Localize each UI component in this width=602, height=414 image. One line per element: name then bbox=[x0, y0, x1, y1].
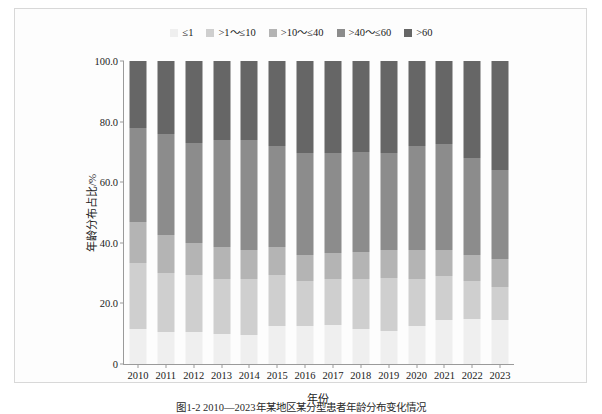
bar-segment bbox=[241, 140, 258, 251]
stacked-bar[interactable] bbox=[324, 61, 341, 364]
bar-segment bbox=[185, 61, 202, 143]
bar-segment bbox=[380, 278, 397, 331]
bar-segment bbox=[129, 263, 146, 330]
x-axis-tick-label: 2018 bbox=[350, 370, 371, 381]
bar-segment bbox=[157, 134, 174, 236]
bar-slot: 2013 bbox=[208, 61, 236, 364]
chart-legend: ≤1>1～≤10>10～≤40>40～≤60>60 bbox=[15, 28, 588, 39]
bar-segment bbox=[492, 259, 509, 286]
bar-segment bbox=[129, 222, 146, 263]
bar-segment bbox=[492, 170, 509, 259]
bar-segment bbox=[297, 153, 314, 255]
stacked-bar[interactable] bbox=[380, 61, 397, 364]
stacked-bar[interactable] bbox=[436, 61, 453, 364]
bar-segment bbox=[297, 326, 314, 364]
bar-segment bbox=[297, 281, 314, 326]
stacked-bar[interactable] bbox=[352, 61, 369, 364]
bar-slot: 2022 bbox=[458, 61, 486, 364]
bar-slot: 2016 bbox=[291, 61, 319, 364]
x-axis-tick-mark bbox=[305, 364, 306, 368]
stacked-bar[interactable] bbox=[492, 61, 509, 364]
bar-segment bbox=[157, 273, 174, 332]
legend-swatch-icon bbox=[170, 29, 178, 37]
bar-segment bbox=[324, 325, 341, 364]
bar-segment bbox=[380, 153, 397, 250]
bar-segment bbox=[380, 331, 397, 364]
stacked-bar[interactable] bbox=[185, 61, 202, 364]
bar-segment bbox=[129, 61, 146, 128]
chart-frame: ≤1>1～≤10>10～≤40>40～≤60>60 年龄分布占比/% 020.0… bbox=[14, 8, 587, 383]
stacked-bar[interactable] bbox=[297, 61, 314, 364]
plot-area: 年龄分布占比/% 020.040.060.080.0100.0 20102011… bbox=[123, 61, 514, 365]
bar-slot: 2017 bbox=[319, 61, 347, 364]
bar-segment bbox=[157, 235, 174, 273]
bar-segment bbox=[157, 61, 174, 134]
x-axis-tick-label: 2020 bbox=[406, 370, 427, 381]
stacked-bar[interactable] bbox=[213, 61, 230, 364]
legend-swatch-icon bbox=[337, 29, 345, 37]
bar-segment bbox=[185, 243, 202, 275]
bar-segment bbox=[408, 250, 425, 279]
bar-segment bbox=[408, 146, 425, 251]
bar-segment bbox=[269, 146, 286, 248]
bar-segment bbox=[408, 61, 425, 146]
bar-segment bbox=[269, 247, 286, 274]
bar-segment bbox=[352, 279, 369, 329]
bar-slot: 2023 bbox=[486, 61, 514, 364]
bar-segment bbox=[464, 158, 481, 255]
bar-segment bbox=[297, 255, 314, 281]
stacked-bar[interactable] bbox=[241, 61, 258, 364]
x-axis-tick-label: 2017 bbox=[322, 370, 343, 381]
bar-segment bbox=[324, 153, 341, 253]
legend-item[interactable]: >10～≤40 bbox=[269, 28, 324, 39]
bar-segment bbox=[185, 275, 202, 333]
bar-segment bbox=[408, 279, 425, 326]
bar-segment bbox=[213, 140, 230, 248]
bar-segment bbox=[241, 279, 258, 335]
bar-segment bbox=[269, 275, 286, 327]
x-axis-tick-label: 2013 bbox=[211, 370, 232, 381]
bar-segment bbox=[436, 320, 453, 364]
bar-segment bbox=[464, 61, 481, 158]
bar-segment bbox=[436, 276, 453, 320]
stacked-bar[interactable] bbox=[129, 61, 146, 364]
x-axis-tick-mark bbox=[277, 364, 278, 368]
x-axis-tick-mark bbox=[388, 364, 389, 368]
bar-segment bbox=[185, 332, 202, 364]
x-axis-tick-mark bbox=[416, 364, 417, 368]
x-axis-tick-mark bbox=[249, 364, 250, 368]
legend-item-label: ≤1 bbox=[182, 28, 193, 39]
x-axis-tick-label: 2019 bbox=[378, 370, 399, 381]
legend-item-label: >1～≤10 bbox=[218, 28, 255, 39]
bar-segment bbox=[436, 144, 453, 250]
legend-item[interactable]: ≤1 bbox=[170, 28, 193, 39]
legend-item-label: >40～≤60 bbox=[349, 28, 392, 39]
bar-segment bbox=[352, 329, 369, 364]
x-axis-tick-label: 2011 bbox=[155, 370, 176, 381]
x-axis-tick-label: 2014 bbox=[239, 370, 260, 381]
bar-segment bbox=[436, 250, 453, 276]
legend-item[interactable]: >60 bbox=[404, 28, 432, 39]
x-axis-tick-label: 2015 bbox=[267, 370, 288, 381]
bar-segment bbox=[213, 334, 230, 364]
x-axis-tick-mark bbox=[360, 364, 361, 368]
legend-item[interactable]: >40～≤60 bbox=[337, 28, 392, 39]
x-axis-tick-mark bbox=[221, 364, 222, 368]
stacked-bar[interactable] bbox=[157, 61, 174, 364]
bar-segment bbox=[352, 152, 369, 252]
bar-segment bbox=[464, 281, 481, 319]
bar-segment bbox=[157, 332, 174, 364]
bar-slot: 2012 bbox=[180, 61, 208, 364]
x-axis-tick-mark bbox=[193, 364, 194, 368]
legend-item[interactable]: >1～≤10 bbox=[206, 28, 255, 39]
bar-segment bbox=[297, 61, 314, 153]
bar-slot: 2011 bbox=[152, 61, 180, 364]
x-axis-tick-label: 2016 bbox=[295, 370, 316, 381]
stacked-bar[interactable] bbox=[269, 61, 286, 364]
stacked-bar[interactable] bbox=[408, 61, 425, 364]
bar-segment bbox=[241, 335, 258, 364]
bar-slot: 2014 bbox=[235, 61, 263, 364]
bar-segment bbox=[213, 279, 230, 334]
stacked-bar[interactable] bbox=[464, 61, 481, 364]
